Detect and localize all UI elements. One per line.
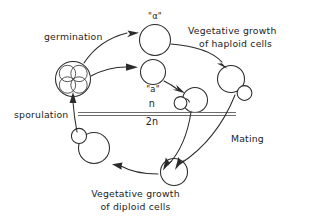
ascus-tetrad bbox=[56, 62, 91, 97]
arrow-diploid-growth bbox=[112, 162, 158, 174]
label-haploid-growth-line1: Vegetative growth bbox=[188, 25, 276, 37]
label-ploidy-diploid: 2n bbox=[137, 116, 167, 128]
haploid-cell-a bbox=[141, 60, 166, 85]
haploid-cell-alpha bbox=[140, 25, 171, 56]
label-germination: germination bbox=[44, 31, 103, 43]
label-haploid-growth-line2: of haploid cells bbox=[199, 38, 272, 50]
label-sporulation: sporulation bbox=[14, 109, 68, 121]
label-ploidy-haploid: n bbox=[140, 98, 164, 110]
diploid-zygote bbox=[161, 159, 188, 186]
budding-diploid bbox=[71, 128, 109, 163]
arrow-sporulation bbox=[70, 92, 77, 132]
label-diploid-growth-line1: Vegetative growth bbox=[73, 188, 198, 200]
label-allele-a: "a" bbox=[141, 84, 165, 95]
label-mating: Mating bbox=[231, 133, 264, 145]
label-allele-alpha: "α" bbox=[142, 11, 168, 22]
yeast-life-cycle-diagram: germination sporulation Mating Vegetativ… bbox=[0, 0, 313, 217]
arrow-germination-a bbox=[91, 64, 138, 76]
arrow-a-to-budding bbox=[164, 81, 185, 93]
label-diploid-growth-line2: of diploid cells bbox=[73, 201, 198, 213]
